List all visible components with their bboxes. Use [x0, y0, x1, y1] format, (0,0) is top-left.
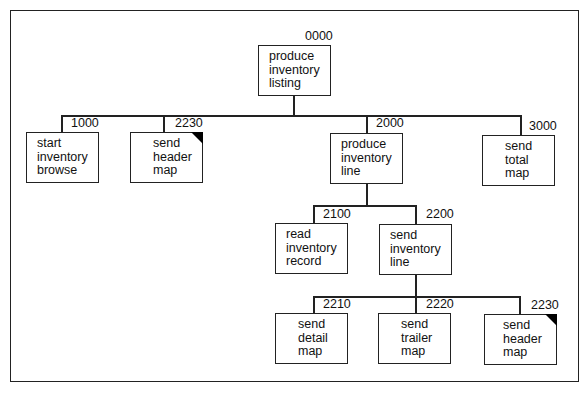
node-send-trailer-map: send trailer map	[378, 313, 451, 364]
node-read-inventory-record: read inventory record	[275, 223, 348, 274]
node-text: record	[286, 255, 347, 269]
node-text: inventory	[269, 64, 330, 78]
node-text: header	[153, 151, 202, 165]
node-produce-inventory-listing: produce inventory listing	[258, 45, 331, 96]
connector-2200-down	[415, 274, 417, 297]
connector-to-2000	[366, 115, 368, 133]
node-text: map	[153, 164, 202, 178]
connector-2000-down	[366, 183, 368, 206]
connector-to-2220	[415, 296, 417, 313]
connector-to-2230a	[163, 115, 165, 132]
node-id-label: 1000	[71, 117, 99, 130]
connector-to-3000	[520, 115, 522, 135]
node-send-inventory-line: send inventory line	[379, 224, 452, 275]
node-id-label: 2200	[426, 208, 454, 221]
node-text: browse	[37, 164, 98, 178]
node-id-label: 2230	[531, 299, 559, 312]
node-text: send	[153, 137, 202, 151]
node-text: inventory	[341, 152, 402, 166]
connector-to-2200	[415, 205, 417, 224]
connector-to-2230b	[519, 296, 521, 314]
node-text: map	[298, 345, 347, 359]
node-id-label: 2100	[323, 208, 351, 221]
node-text: produce	[341, 138, 402, 152]
node-id-label: 3000	[529, 120, 557, 133]
node-id-label: 2000	[376, 117, 404, 130]
node-id-label: 2230	[175, 117, 203, 130]
node-text: header	[495, 333, 556, 347]
node-text: map	[495, 346, 556, 360]
connector-root-down	[293, 96, 295, 116]
connector-to-2210	[313, 296, 315, 313]
node-text: send	[401, 318, 450, 332]
node-send-header-map: send header map	[484, 314, 557, 365]
connector-to-1000	[61, 115, 63, 132]
node-text: read	[286, 228, 347, 242]
node-text: produce	[269, 50, 330, 64]
node-text: send	[505, 140, 554, 154]
node-text: send	[390, 229, 451, 243]
connector-level1-bar	[61, 115, 521, 117]
node-text: inventory	[390, 243, 451, 257]
node-send-detail-map: send detail map	[275, 313, 348, 364]
node-text: map	[401, 345, 450, 359]
node-send-total-map: send total map	[482, 135, 555, 186]
node-text: send	[495, 319, 556, 333]
node-id-label: 2220	[426, 298, 454, 311]
node-send-header-map: send header map	[130, 132, 203, 183]
node-text: inventory	[286, 242, 347, 256]
node-text: line	[390, 256, 451, 270]
node-text: trailer	[401, 332, 450, 346]
node-start-inventory-browse: start inventory browse	[26, 132, 99, 183]
node-text: inventory	[37, 151, 98, 165]
node-text: total	[505, 154, 554, 168]
connector-to-2100	[313, 205, 315, 223]
node-text: start	[37, 137, 98, 151]
node-id-label: 2210	[323, 298, 351, 311]
node-text: map	[505, 167, 554, 181]
node-id-label: 0000	[305, 30, 333, 43]
node-text: detail	[298, 332, 347, 346]
node-text: listing	[269, 77, 330, 91]
node-produce-inventory-line: produce inventory line	[330, 133, 403, 184]
node-text: send	[298, 318, 347, 332]
node-text: line	[341, 165, 402, 179]
